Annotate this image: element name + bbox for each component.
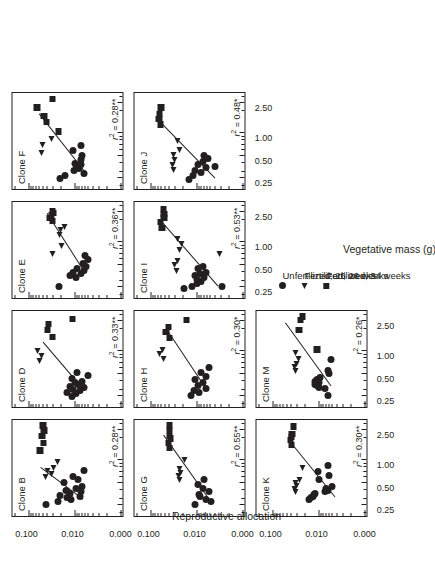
y-tick-minor (92, 404, 93, 407)
y-tick-minor (76, 295, 77, 298)
y-tick-minor (52, 186, 53, 189)
y-tick-minor (152, 513, 153, 516)
x-tick-major (117, 320, 123, 321)
x-tick-minor (241, 373, 244, 374)
y-tick-minor (42, 404, 43, 407)
y-tick-minor (52, 295, 53, 298)
panel-r-squared: r2 = 0.28** (107, 99, 119, 140)
y-tick-major (28, 402, 29, 408)
plot-area (134, 203, 244, 299)
x-tick-minor (119, 373, 122, 374)
y-tick-minor (52, 404, 53, 407)
y-tick-major (28, 184, 29, 190)
y-tick-minor (84, 513, 85, 516)
y-tick-minor (35, 186, 36, 189)
data-point-square (38, 433, 44, 439)
legend-item: Fertilized, 26 weeks (297, 89, 311, 289)
data-point-circle (311, 490, 318, 497)
y-tick-minor (279, 404, 280, 407)
y-tick-minor (76, 186, 77, 189)
y-tick-minor (78, 295, 79, 298)
x-tick-minor (241, 280, 244, 281)
x-tick-minor (119, 423, 122, 424)
y-tick-minor (214, 295, 215, 298)
y-tick-major (272, 402, 273, 408)
y-tick-minor (157, 404, 158, 407)
data-point-circle (200, 152, 207, 159)
panel-r-squared: r2 = 0.53** (229, 208, 241, 249)
data-point-square (44, 327, 50, 333)
x-tick-minor (119, 476, 122, 477)
y-tick-minor (106, 186, 107, 189)
y-tick-minor (42, 295, 43, 298)
x-tick-minor (241, 264, 244, 265)
y-tick-minor (160, 513, 161, 516)
x-tick-minor (119, 144, 122, 145)
data-point-circle (63, 389, 70, 396)
data-point-circle (324, 367, 331, 374)
data-point-circle (54, 498, 61, 505)
data-point-triangle (299, 465, 305, 471)
y-tick-minor (92, 186, 93, 189)
y-tick-minor (32, 404, 33, 407)
x-tick-major (239, 211, 245, 212)
x-tick-major (239, 177, 245, 178)
y-tick-minor (152, 295, 153, 298)
data-point-square (156, 111, 162, 117)
data-point-square (160, 206, 166, 212)
plot-area (134, 312, 244, 408)
x-tick-minor (119, 162, 122, 163)
y-tick-minor (78, 513, 79, 516)
y-tick-label: 0.000 (108, 529, 131, 539)
data-point-circle (78, 378, 85, 385)
y-tick-minor (296, 513, 297, 516)
data-point-square (49, 208, 55, 214)
y-tick-minor (38, 513, 39, 516)
panel-cloneE: Clone Er2 = 0.36** (11, 202, 123, 300)
y-tick-minor (200, 404, 201, 407)
y-tick-label: 0.010 (304, 529, 327, 539)
plot-area (134, 421, 244, 517)
x-tick-minor (119, 171, 122, 172)
panel-cloneH: Clone Hr2 = 0.30* (133, 311, 245, 409)
x-tick-minor (119, 367, 122, 368)
y-tick-minor (60, 513, 61, 516)
data-point-circle (324, 462, 331, 469)
data-point-triangle (61, 224, 67, 230)
x-tick-minor (119, 264, 122, 265)
panel-r-squared: r2 = 0.55** (229, 426, 241, 467)
x-tick-minor (241, 423, 244, 424)
y-tick-minor (164, 404, 165, 407)
y-tick-minor (209, 295, 210, 298)
y-tick-minor (98, 404, 99, 407)
y-tick-minor (220, 295, 221, 298)
x-tick-minor (119, 155, 122, 156)
x-tick-minor (241, 476, 244, 477)
data-point-circle (78, 152, 85, 159)
x-tick-label: 0.50 (254, 156, 272, 166)
data-point-triangle (36, 358, 42, 364)
panel-title: Clone J (137, 152, 148, 184)
data-point-triangle (174, 236, 180, 242)
y-tick-major (364, 402, 365, 408)
y-tick-minor (87, 295, 88, 298)
rotated-figure-canvas: Clone Br2 = 0.28**Clone Dr2 = 0.33**Clon… (0, 0, 435, 574)
y-tick-label: 0.000 (352, 529, 375, 539)
x-tick-minor (119, 149, 122, 150)
y-tick-minor (328, 513, 329, 516)
plot-area (12, 421, 122, 517)
x-tick-label: 2.50 (376, 322, 394, 332)
x-tick-minor (241, 155, 244, 156)
x-tick-minor (119, 463, 122, 464)
x-tick-minor (119, 258, 122, 259)
x-tick-minor (363, 362, 366, 363)
x-tick-major (117, 177, 123, 178)
x-tick-major (361, 429, 367, 430)
y-tick-minor (206, 404, 207, 407)
y-tick-minor (14, 186, 15, 189)
y-tick-minor (322, 513, 323, 516)
x-tick-major (117, 286, 123, 287)
y-tick-minor (198, 404, 199, 407)
data-point-triangle (292, 350, 298, 356)
y-tick-minor (14, 404, 15, 407)
